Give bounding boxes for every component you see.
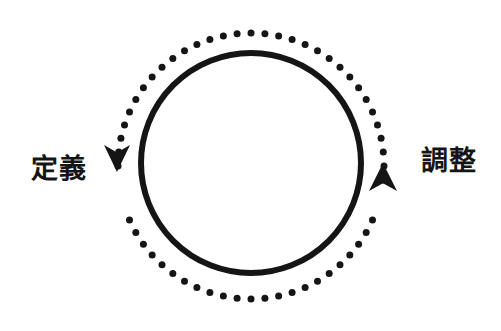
ring-dot xyxy=(378,135,385,142)
ring-dot xyxy=(132,96,139,103)
arrow-define-icon xyxy=(104,145,130,172)
ring-dot xyxy=(326,270,333,277)
ring-dot xyxy=(181,47,188,54)
ring-dot xyxy=(346,251,353,258)
ring-dot xyxy=(126,217,133,224)
ring-dot xyxy=(261,295,268,302)
ring-dot xyxy=(369,108,376,115)
ring-dot xyxy=(140,84,147,91)
ring-dot xyxy=(355,241,362,248)
ring-dot xyxy=(374,121,381,128)
label-define: 定義 xyxy=(31,155,87,182)
dotted-circle xyxy=(115,30,388,303)
ring-dot xyxy=(289,289,296,296)
ring-dot xyxy=(380,149,387,156)
solid-circle xyxy=(141,53,361,273)
ring-dot xyxy=(117,135,124,142)
label-adjust: 調整 xyxy=(421,147,477,174)
ring-dot xyxy=(181,278,188,285)
cycle-diagram: 定義 調整 xyxy=(0,0,501,331)
ring-dot xyxy=(220,32,227,39)
ring-dot xyxy=(169,270,176,277)
ring-dot xyxy=(326,55,333,62)
ring-dot xyxy=(355,84,362,91)
ring-dot xyxy=(193,41,200,48)
ring-dot xyxy=(159,261,166,268)
ring-dot xyxy=(302,284,309,291)
ring-dot xyxy=(369,217,376,224)
ring-dot xyxy=(336,64,343,71)
ring-dot xyxy=(206,36,213,43)
ring-dot xyxy=(302,41,309,48)
ring-dot xyxy=(234,30,241,37)
ring-dot xyxy=(275,293,282,300)
ring-dot xyxy=(289,36,296,43)
ring-dot xyxy=(363,96,370,103)
ring-dot xyxy=(159,64,166,71)
ring-dot xyxy=(206,289,213,296)
ring-dot xyxy=(248,296,255,303)
ring-dot xyxy=(169,55,176,62)
ring-dot xyxy=(234,295,241,302)
ring-dot xyxy=(149,74,156,81)
ring-dot xyxy=(149,251,156,258)
ring-dot xyxy=(314,278,321,285)
ring-dot xyxy=(126,108,133,115)
ring-dot xyxy=(132,229,139,236)
ring-dot xyxy=(314,47,321,54)
ring-dot xyxy=(140,241,147,248)
ring-dot xyxy=(275,32,282,39)
ring-dot xyxy=(363,229,370,236)
ring-dot xyxy=(220,293,227,300)
ring-dot xyxy=(336,261,343,268)
arrow-adjust-icon xyxy=(369,163,397,191)
ring-dot xyxy=(121,121,128,128)
ring-dot xyxy=(193,284,200,291)
ring-dot xyxy=(248,30,255,37)
ring-dot xyxy=(261,30,268,37)
ring-dot xyxy=(346,74,353,81)
